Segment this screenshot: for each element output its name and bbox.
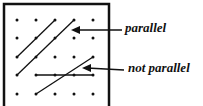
not-parallel-label: not parallel xyxy=(128,60,190,76)
arrows xyxy=(71,26,124,72)
parallel-line-1 xyxy=(17,20,55,57)
diagram: parallel not parallel xyxy=(0,0,203,106)
arrowhead-icon xyxy=(71,26,80,34)
parallel-line-2 xyxy=(17,20,74,75)
parallel-label: parallel xyxy=(125,20,166,36)
not-parallel-arrow xyxy=(87,68,124,70)
arrowhead-icon xyxy=(82,64,91,72)
dot-grid-figure xyxy=(0,0,203,106)
